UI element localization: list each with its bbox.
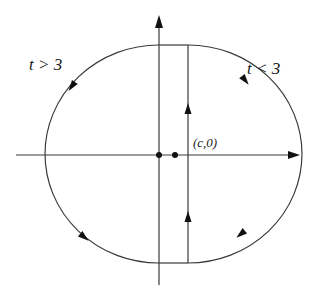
arrow-down-left-icon [234, 228, 247, 240]
arrow-down-left-icon [66, 80, 78, 93]
phase-diagram: t > 3 t < 3 (c,0) [0, 0, 315, 303]
left-arc-curve [45, 45, 159, 263]
arrow-up-icon [185, 211, 192, 222]
arrow-up-icon [185, 103, 192, 114]
c-point [172, 152, 178, 158]
origin-point [156, 152, 162, 158]
label-c-0: (c,0) [193, 135, 217, 150]
x-axis-arrowhead-icon [288, 151, 300, 159]
label-t-less-3: t < 3 [247, 59, 280, 78]
y-axis-arrowhead-icon [155, 15, 163, 28]
label-t-greater-3: t > 3 [29, 55, 62, 74]
